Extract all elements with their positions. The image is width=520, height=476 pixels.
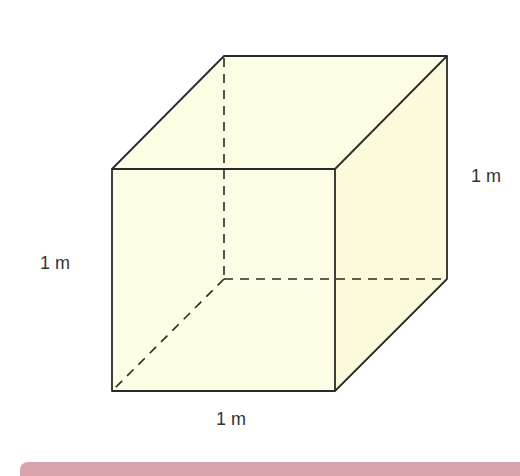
- footer-bar: [20, 462, 520, 476]
- height-label: 1 m: [40, 253, 70, 274]
- width-label: 1 m: [216, 409, 246, 430]
- depth-label: 1 m: [471, 166, 501, 187]
